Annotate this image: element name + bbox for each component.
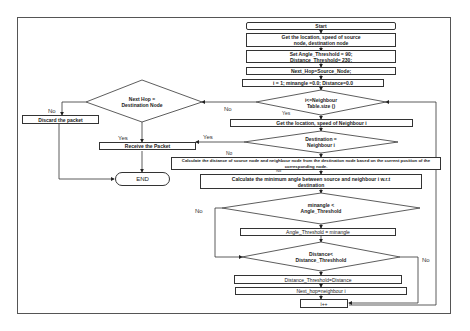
edge-label-no: No [276, 168, 281, 173]
edge-label-yes: Yes [203, 134, 213, 140]
edge-label-no: No [422, 257, 430, 263]
receive-packet-node: Receive the Packet [99, 142, 196, 150]
calculate-distance-node: Calculate the distance of source node an… [171, 157, 441, 170]
set-angle-threshold-node: Angle_Threshold = minangle [240, 228, 396, 236]
loop-condition-label: i<=Neighbour Table.size () [290, 95, 352, 110]
discard-packet-node: Discard the packet [22, 115, 99, 124]
get-neighbour-node: Get the location, speed of Neighbour i [230, 119, 413, 127]
edge-label-yes: Yes [282, 110, 290, 116]
end-node: END [115, 172, 170, 186]
destination-neighbour-label: Destination = Neighbour i [290, 134, 352, 150]
set-thresholds-node: Set Angle_Threshold = 90; Distance_Thres… [246, 50, 396, 63]
angle-threshold-label: minangle < Angle_Threshold [290, 200, 352, 216]
get-location-node: Get the location, speed of source node, … [246, 33, 396, 47]
set-distance-threshold-node: Distance_Threshold=Distance [234, 275, 402, 284]
distance-threshold-label: Distance< Distance_Threshhold [286, 250, 356, 264]
init-vars-node: i = 1; minangle =0.0; Distance=0.0 [242, 79, 384, 87]
edge-label-no: No [48, 108, 56, 114]
edge-label-no: No [195, 208, 203, 214]
start-node: Start [246, 22, 396, 30]
set-next-hop-node: Next_hop=neighbour i [235, 287, 407, 295]
edge-label-no: No [226, 150, 232, 156]
edge-label-yes: Yes [118, 135, 128, 141]
increment-node: i++ [300, 299, 348, 308]
next-hop-init-node: Next_Hop=Source_Node; [246, 67, 396, 75]
next-hop-destination-label: Next Hop = Destination Node [114, 90, 170, 114]
edge-label-no: No [224, 106, 232, 112]
calculate-angle-node: Calculate the minimum angle between sour… [200, 174, 422, 189]
